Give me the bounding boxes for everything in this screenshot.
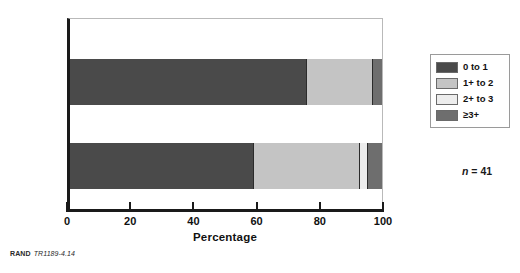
bar-segment-1plus-to-2[interactable] xyxy=(307,59,373,105)
legend: 0 to 11+ to 22+ to 3≥3+ xyxy=(430,54,510,128)
x-axis-tick xyxy=(192,202,194,212)
stacked-bar-gt3cyos xyxy=(70,59,382,105)
bar-segment-ge3plus[interactable] xyxy=(373,59,382,105)
figure-source-note: RANDTR1189-4.14 xyxy=(10,250,75,257)
x-axis-tick xyxy=(256,202,258,212)
legend-item[interactable]: 1+ to 2 xyxy=(436,76,505,90)
bar-segment-0-to-1[interactable] xyxy=(70,143,254,189)
x-axis-tick-label: 0 xyxy=(45,215,89,227)
n-equals: = xyxy=(468,165,480,177)
bar-segment-0-to-1[interactable] xyxy=(70,59,307,105)
x-axis-tick-label: 80 xyxy=(298,215,342,227)
legend-swatch-icon xyxy=(436,78,458,89)
rand-brand: RAND xyxy=(10,250,31,257)
x-axis-tick-label: 20 xyxy=(108,215,152,227)
bar-row xyxy=(70,59,382,105)
x-axis-title: Percentage xyxy=(67,231,383,243)
x-axis-tick-label: 60 xyxy=(235,215,279,227)
bar-segment-ge3plus[interactable] xyxy=(368,143,382,189)
figure-container: >3 CYOS ≤3 CYOS n = 31 n = 41 0204060801… xyxy=(0,0,520,273)
bar-segment-1plus-to-2[interactable] xyxy=(254,143,360,189)
bar-segment-2plus-to-3[interactable] xyxy=(360,143,368,189)
x-axis-tick xyxy=(66,202,68,212)
stacked-bar-le3cyos xyxy=(70,143,382,189)
x-axis-tick xyxy=(129,202,131,212)
legend-label: ≥3+ xyxy=(463,110,479,120)
x-axis-tick xyxy=(382,202,384,212)
x-axis-tick xyxy=(319,202,321,212)
plot-area: >3 CYOS ≤3 CYOS n = 31 n = 41 xyxy=(67,18,383,212)
bar-row xyxy=(70,143,382,189)
figure-code: TR1189-4.14 xyxy=(34,250,75,257)
legend-label: 0 to 1 xyxy=(463,62,488,72)
x-axis-tick-label: 100 xyxy=(361,215,405,227)
legend-swatch-icon xyxy=(436,94,458,105)
n-value: 41 xyxy=(480,165,492,177)
legend-label: 1+ to 2 xyxy=(463,78,493,88)
legend-label: 2+ to 3 xyxy=(463,94,493,104)
sample-size-annotation: n = 41 xyxy=(462,165,492,177)
legend-item[interactable]: ≥3+ xyxy=(436,108,505,122)
x-axis-tick-label: 40 xyxy=(171,215,215,227)
legend-swatch-icon xyxy=(436,110,458,121)
legend-item[interactable]: 2+ to 3 xyxy=(436,92,505,106)
legend-swatch-icon xyxy=(436,62,458,73)
legend-item[interactable]: 0 to 1 xyxy=(436,60,505,74)
